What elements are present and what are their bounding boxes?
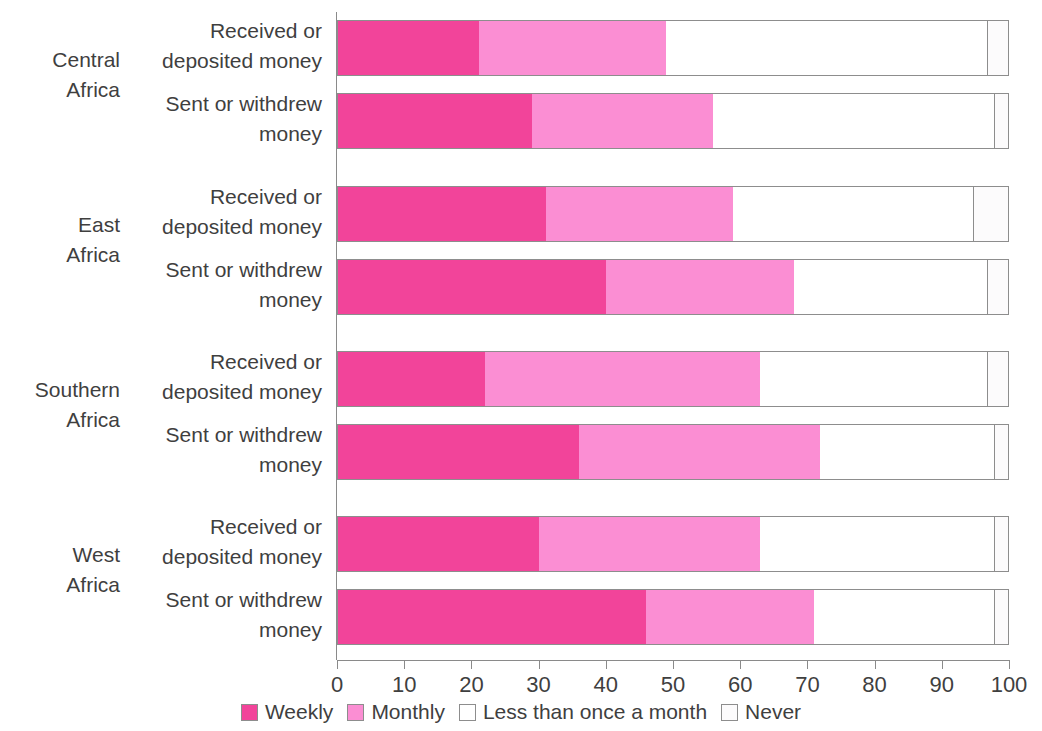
bar-segment-weekly: [338, 187, 546, 241]
bar-segment-less: [733, 187, 974, 241]
legend-item[interactable]: Less than once a month: [459, 700, 707, 724]
chart-row: Sent or withdrewmoney: [0, 581, 1042, 653]
x-axis-tick-label: 40: [594, 672, 618, 698]
bar-segment-weekly: [338, 352, 485, 406]
chart-group: CentralAfricaReceived ordeposited moneyS…: [0, 12, 1042, 158]
x-axis-tick-label: 70: [795, 672, 819, 698]
bar-segment-never: [995, 590, 1008, 644]
x-axis-tick: [942, 660, 943, 669]
x-axis-tick-label: 30: [526, 672, 550, 698]
legend-swatch-icon: [721, 704, 738, 721]
chart-row: Received ordeposited money: [0, 343, 1042, 415]
x-axis-tick-label: 20: [459, 672, 483, 698]
bar-segment-less: [820, 425, 994, 479]
bar-segment-weekly: [338, 260, 606, 314]
legend-item[interactable]: Never: [721, 700, 801, 724]
legend-label: Less than once a month: [483, 700, 707, 724]
x-axis-tick: [539, 660, 540, 669]
bar-segment-less: [713, 94, 994, 148]
bar-segment-monthly: [606, 260, 794, 314]
x-axis-tick: [1009, 660, 1010, 669]
bar-segment-never: [988, 352, 1008, 406]
row-label: Received ordeposited money: [122, 182, 322, 242]
bar-segment-monthly: [579, 425, 820, 479]
chart-group: SouthernAfricaReceived ordeposited money…: [0, 343, 1042, 489]
x-axis-tick: [404, 660, 405, 669]
row-label: Received ordeposited money: [122, 16, 322, 76]
x-axis-tick: [471, 660, 472, 669]
bar-segment-monthly: [532, 94, 713, 148]
row-label: Received ordeposited money: [122, 512, 322, 572]
x-axis-tick-label: 80: [862, 672, 886, 698]
chart-row: Sent or withdrewmoney: [0, 85, 1042, 157]
chart-group: WestAfricaReceived ordeposited moneySent…: [0, 508, 1042, 654]
legend-swatch-icon: [347, 704, 364, 721]
legend-label: Monthly: [371, 700, 445, 724]
x-axis-tick: [606, 660, 607, 669]
bar-segment-never: [974, 187, 1008, 241]
legend-swatch-icon: [241, 704, 258, 721]
bar-segment-monthly: [485, 352, 760, 406]
chart-row: Received ordeposited money: [0, 508, 1042, 580]
legend-item[interactable]: Monthly: [347, 700, 445, 724]
chart-row: Received ordeposited money: [0, 178, 1042, 250]
bar-segment-weekly: [338, 21, 479, 75]
stacked-bar: [337, 186, 1009, 242]
x-axis-tick: [740, 660, 741, 669]
chart-row: Sent or withdrewmoney: [0, 251, 1042, 323]
bar-segment-never: [995, 517, 1008, 571]
x-axis-tick: [337, 660, 338, 669]
bar-segment-weekly: [338, 590, 646, 644]
bar-segment-less: [814, 590, 995, 644]
stacked-bar: [337, 259, 1009, 315]
bar-segment-weekly: [338, 425, 579, 479]
chart-group: EastAfricaReceived ordeposited moneySent…: [0, 178, 1042, 324]
legend-label: Weekly: [265, 700, 333, 724]
bar-segment-weekly: [338, 94, 532, 148]
bar-segment-never: [995, 425, 1008, 479]
bar-segment-monthly: [539, 517, 760, 571]
bar-segment-never: [995, 94, 1008, 148]
chart-row: Sent or withdrewmoney: [0, 416, 1042, 488]
legend-label: Never: [745, 700, 801, 724]
x-axis-tick-label: 90: [930, 672, 954, 698]
x-axis-tick-label: 10: [392, 672, 416, 698]
stacked-bar: [337, 351, 1009, 407]
x-axis-tick-label: 60: [728, 672, 752, 698]
chart-row: Received ordeposited money: [0, 12, 1042, 84]
bar-segment-monthly: [546, 187, 734, 241]
row-label: Sent or withdrewmoney: [122, 89, 322, 149]
x-axis-tick-label: 100: [991, 672, 1028, 698]
stacked-bar: [337, 516, 1009, 572]
x-axis-tick: [875, 660, 876, 669]
stacked-bar: [337, 93, 1009, 149]
bar-segment-less: [760, 517, 995, 571]
bar-segment-less: [760, 352, 988, 406]
legend-item[interactable]: Weekly: [241, 700, 333, 724]
x-axis-tick-label: 0: [331, 672, 343, 698]
bar-segment-less: [666, 21, 988, 75]
x-axis-tick: [673, 660, 674, 669]
stacked-bar: [337, 589, 1009, 645]
row-label: Sent or withdrewmoney: [122, 255, 322, 315]
bar-segment-never: [988, 21, 1008, 75]
bar-segment-weekly: [338, 517, 539, 571]
stacked-bar: [337, 424, 1009, 480]
stacked-bar: [337, 20, 1009, 76]
row-label: Sent or withdrewmoney: [122, 585, 322, 645]
legend-swatch-icon: [459, 704, 476, 721]
row-label: Received ordeposited money: [122, 347, 322, 407]
bar-segment-monthly: [646, 590, 814, 644]
x-axis-tick-label: 50: [661, 672, 685, 698]
stacked-bar-chart: CentralAfricaReceived ordeposited moneyS…: [0, 0, 1042, 731]
bar-segment-monthly: [479, 21, 667, 75]
row-label: Sent or withdrewmoney: [122, 420, 322, 480]
chart-legend: WeeklyMonthlyLess than once a monthNever: [0, 700, 1042, 724]
bar-segment-less: [794, 260, 988, 314]
bar-segment-never: [988, 260, 1008, 314]
x-axis-tick: [807, 660, 808, 669]
